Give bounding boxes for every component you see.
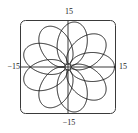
axis-label-bottom: −15 [0, 119, 138, 127]
graph-figure [0, 0, 138, 133]
axis-label-left: −15 [1, 63, 20, 71]
axis-label-right: 15 [119, 63, 137, 71]
axis-label-top: 15 [0, 8, 138, 16]
